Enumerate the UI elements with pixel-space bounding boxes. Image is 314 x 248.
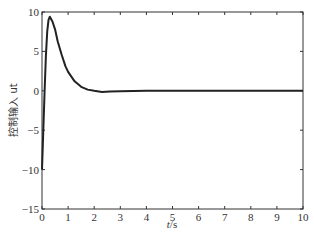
x-tick-label: 6 [196, 211, 202, 223]
y-tick-label: −15 [22, 203, 40, 215]
x-tick-label: 8 [248, 211, 254, 223]
data-series [42, 17, 303, 170]
x-tick-label: 3 [118, 211, 124, 223]
line-chart: 012345678910−15−10−50510 t/s 控制输入 ut [0, 0, 314, 248]
y-tick-label: −10 [22, 164, 40, 176]
x-tick-label: 9 [274, 211, 280, 223]
x-tick-label: 7 [222, 211, 228, 223]
y-tick-label: 5 [34, 45, 40, 57]
y-tick-label: −5 [27, 124, 39, 136]
x-tick-label: 2 [91, 211, 97, 223]
axis-ticks [42, 12, 303, 209]
x-tick-label: 10 [298, 211, 310, 223]
plot-frame [42, 12, 303, 209]
series-line-ut [42, 17, 303, 170]
x-axis-label: t/s [167, 218, 177, 230]
x-tick-label: 1 [65, 211, 71, 223]
axis-tick-labels: 012345678910−15−10−50510 [22, 6, 309, 223]
x-tick-label: 4 [144, 211, 150, 223]
y-axis-label: 控制输入 ut [7, 83, 19, 137]
y-tick-label: 10 [28, 6, 40, 18]
x-tick-label: 0 [39, 211, 45, 223]
x-axis-label-unit: /s [170, 218, 177, 230]
plot-border [42, 12, 303, 209]
y-tick-label: 0 [34, 85, 40, 97]
